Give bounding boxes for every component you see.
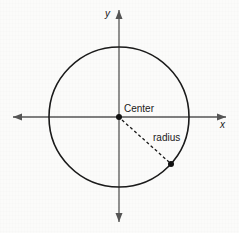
center-label: Center bbox=[124, 104, 154, 114]
center-point-dot bbox=[116, 114, 122, 120]
x-axis-label: x bbox=[220, 120, 225, 130]
radius-endpoint-dot bbox=[168, 161, 174, 167]
y-axis-label: y bbox=[105, 9, 110, 19]
x-axis-left-arrowhead-icon bbox=[13, 114, 22, 121]
y-axis-down-arrowhead-icon bbox=[116, 213, 123, 222]
diagram-canvas bbox=[0, 0, 239, 233]
y-axis-up-arrowhead-icon bbox=[116, 10, 123, 19]
radius-label: radius bbox=[153, 133, 180, 143]
circle-diagram: Center radius y x bbox=[0, 0, 239, 233]
